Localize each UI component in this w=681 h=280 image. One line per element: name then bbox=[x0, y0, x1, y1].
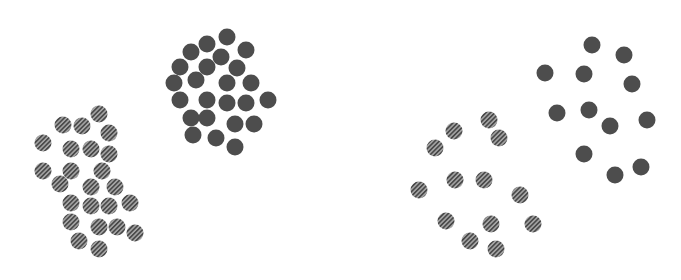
striped-dot bbox=[63, 195, 80, 212]
solid-dot bbox=[213, 49, 230, 66]
solid-dot bbox=[172, 59, 189, 76]
solid-dot bbox=[260, 92, 277, 109]
striped-dot bbox=[476, 172, 493, 189]
striped-dot bbox=[101, 198, 118, 215]
striped-dot bbox=[109, 219, 126, 236]
solid-dot bbox=[238, 42, 255, 59]
solid-dot bbox=[199, 92, 216, 109]
striped-dot bbox=[91, 106, 108, 123]
solid-dot bbox=[219, 29, 236, 46]
solid-dot bbox=[549, 105, 566, 122]
striped-dot bbox=[71, 233, 88, 250]
solid-dot bbox=[584, 37, 601, 54]
solid-dot bbox=[208, 130, 225, 147]
solid-dot bbox=[185, 127, 202, 144]
striped-dot bbox=[74, 118, 91, 135]
striped-dot bbox=[35, 135, 52, 152]
solid-dot bbox=[576, 146, 593, 163]
striped-dot bbox=[488, 241, 505, 258]
solid-dot bbox=[172, 92, 189, 109]
solid-dot bbox=[183, 44, 200, 61]
striped-dot bbox=[52, 176, 69, 193]
solid-dot bbox=[639, 112, 656, 129]
striped-dot bbox=[91, 241, 108, 258]
striped-dot bbox=[91, 219, 108, 236]
striped-dot bbox=[83, 179, 100, 196]
striped-dot bbox=[101, 146, 118, 163]
solid-dot bbox=[581, 102, 598, 119]
striped-dot bbox=[483, 216, 500, 233]
striped-dot bbox=[525, 216, 542, 233]
solid-dot bbox=[537, 65, 554, 82]
striped-dot bbox=[83, 141, 100, 158]
solid-dot bbox=[188, 72, 205, 89]
striped-dot bbox=[83, 198, 100, 215]
solid-dot bbox=[576, 66, 593, 83]
striped-dot bbox=[101, 125, 118, 142]
solid-dot bbox=[166, 75, 183, 92]
striped-dot bbox=[63, 214, 80, 231]
striped-dot bbox=[427, 140, 444, 157]
solid-dot bbox=[199, 36, 216, 53]
solid-dot bbox=[616, 47, 633, 64]
striped-dot bbox=[446, 123, 463, 140]
solid-dot bbox=[227, 116, 244, 133]
dots-canvas bbox=[0, 0, 681, 280]
striped-dot bbox=[491, 130, 508, 147]
striped-dot bbox=[63, 163, 80, 180]
solid-dot bbox=[602, 118, 619, 135]
striped-dot bbox=[447, 172, 464, 189]
striped-dot bbox=[438, 213, 455, 230]
striped-dot bbox=[462, 233, 479, 250]
striped-dot bbox=[512, 187, 529, 204]
solid-dot bbox=[183, 110, 200, 127]
solid-dot bbox=[238, 95, 255, 112]
solid-dot bbox=[607, 167, 624, 184]
striped-dot bbox=[63, 141, 80, 158]
striped-dot bbox=[55, 117, 72, 134]
solid-dot bbox=[219, 75, 236, 92]
striped-dot bbox=[122, 195, 139, 212]
striped-dot bbox=[35, 163, 52, 180]
striped-dot bbox=[107, 179, 124, 196]
striped-dot bbox=[127, 225, 144, 242]
solid-dot bbox=[243, 75, 260, 92]
solid-dot bbox=[199, 110, 216, 127]
solid-dot bbox=[227, 139, 244, 156]
right-panel-sparse-clusters bbox=[411, 37, 656, 258]
solid-dot bbox=[229, 60, 246, 77]
solid-dot bbox=[624, 76, 641, 93]
solid-dot bbox=[246, 116, 263, 133]
solid-dot bbox=[199, 59, 216, 76]
striped-dot bbox=[411, 182, 428, 199]
striped-dot bbox=[94, 163, 111, 180]
striped-dot bbox=[481, 112, 498, 129]
solid-dot bbox=[219, 95, 236, 112]
left-panel-dense-clusters bbox=[35, 29, 277, 258]
solid-dot bbox=[633, 159, 650, 176]
dot-cluster-diagram bbox=[0, 0, 681, 280]
